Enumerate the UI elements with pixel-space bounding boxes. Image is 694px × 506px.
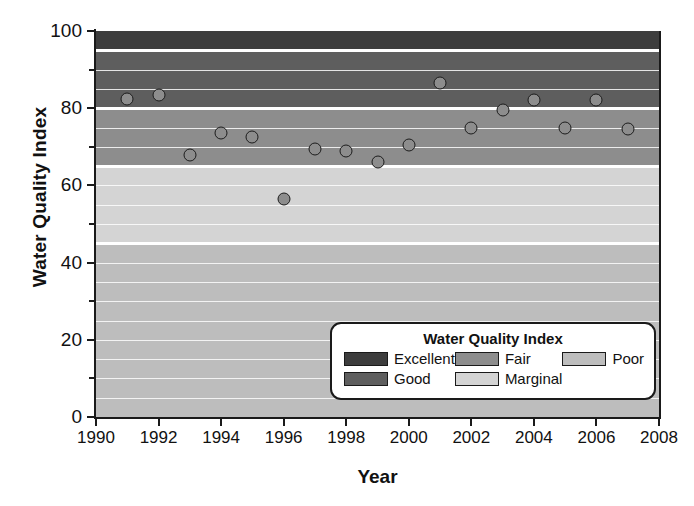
legend-column-3: Poor bbox=[562, 350, 644, 387]
data-point bbox=[152, 88, 165, 101]
band-separator bbox=[96, 107, 659, 110]
legend-item-excellent: Excellent bbox=[344, 350, 455, 367]
legend-item-marginal: Marginal bbox=[455, 370, 563, 387]
y-tick-minor bbox=[89, 223, 94, 225]
legend-label: Marginal bbox=[505, 371, 563, 386]
data-point bbox=[246, 131, 259, 144]
y-tick-minor bbox=[89, 300, 94, 302]
x-tick bbox=[158, 419, 160, 426]
legend-item-fair: Fair bbox=[455, 350, 563, 367]
band-separator bbox=[96, 49, 659, 52]
x-tick-label: 1992 bbox=[140, 428, 178, 448]
y-tick-major bbox=[87, 184, 94, 186]
gridline bbox=[96, 263, 659, 264]
legend-label: Fair bbox=[505, 351, 531, 366]
legend-box: Water Quality Index ExcellentGoodFairMar… bbox=[330, 322, 656, 400]
data-point bbox=[371, 156, 384, 169]
y-tick-label: 80 bbox=[20, 97, 82, 119]
gridline bbox=[96, 205, 659, 206]
data-point bbox=[434, 77, 447, 90]
x-tick bbox=[345, 419, 347, 426]
y-tick-major bbox=[87, 107, 94, 109]
gridline bbox=[96, 282, 659, 283]
data-point bbox=[277, 192, 290, 205]
legend-swatch-fair bbox=[455, 352, 499, 366]
x-tick bbox=[470, 419, 472, 426]
data-point bbox=[559, 121, 572, 134]
gridline bbox=[96, 70, 659, 71]
x-tick bbox=[658, 419, 660, 426]
legend-column-2: FairMarginal bbox=[455, 350, 563, 387]
band-separator bbox=[96, 242, 659, 245]
x-tick-label: 1990 bbox=[77, 428, 115, 448]
y-axis-line bbox=[94, 29, 96, 419]
gridline bbox=[96, 301, 659, 302]
y-tick-label: 40 bbox=[20, 252, 82, 274]
data-point bbox=[590, 94, 603, 107]
x-tick-label: 1994 bbox=[202, 428, 240, 448]
data-point bbox=[340, 144, 353, 157]
band-excellent bbox=[96, 31, 659, 50]
legend-columns: ExcellentGoodFairMarginalPoor bbox=[340, 350, 646, 387]
gridline bbox=[96, 185, 659, 186]
legend-swatch-poor bbox=[562, 352, 606, 366]
y-tick-label: 60 bbox=[20, 174, 82, 196]
y-tick-major bbox=[87, 262, 94, 264]
legend-title: Water Quality Index bbox=[340, 330, 646, 347]
x-tick bbox=[283, 419, 285, 426]
data-point bbox=[496, 104, 509, 117]
x-tick-label: 2000 bbox=[390, 428, 428, 448]
legend-swatch-excellent bbox=[344, 352, 388, 366]
data-point bbox=[121, 92, 134, 105]
x-tick-label: 1996 bbox=[265, 428, 303, 448]
data-point bbox=[527, 94, 540, 107]
legend-label: Good bbox=[394, 371, 431, 386]
y-tick-minor bbox=[89, 146, 94, 148]
data-point bbox=[215, 127, 228, 140]
data-point bbox=[402, 138, 415, 151]
y-tick-label: 0 bbox=[20, 406, 82, 428]
legend-label: Poor bbox=[612, 351, 644, 366]
band-good bbox=[96, 50, 659, 108]
x-tick-label: 2002 bbox=[452, 428, 490, 448]
y-tick-major bbox=[87, 339, 94, 341]
gridline bbox=[96, 128, 659, 129]
gridline bbox=[96, 89, 659, 90]
x-tick-label: 2004 bbox=[515, 428, 553, 448]
y-tick-label: 20 bbox=[20, 329, 82, 351]
x-axis-title: Year bbox=[96, 466, 659, 488]
data-point bbox=[621, 123, 634, 136]
x-tick-label: 1998 bbox=[327, 428, 365, 448]
y-tick-minor bbox=[89, 377, 94, 379]
gridline bbox=[96, 147, 659, 148]
x-tick-label: 2008 bbox=[640, 428, 678, 448]
gridline bbox=[96, 224, 659, 225]
data-point bbox=[183, 148, 196, 161]
x-tick bbox=[533, 419, 535, 426]
legend-swatch-good bbox=[344, 372, 388, 386]
legend-column-1: ExcellentGood bbox=[344, 350, 455, 387]
y-tick-major bbox=[87, 30, 94, 32]
data-point bbox=[465, 121, 478, 134]
legend-item-good: Good bbox=[344, 370, 455, 387]
x-tick bbox=[220, 419, 222, 426]
x-tick bbox=[95, 419, 97, 426]
y-tick-minor bbox=[89, 69, 94, 71]
x-tick-label: 2006 bbox=[578, 428, 616, 448]
legend-label: Excellent bbox=[394, 351, 455, 366]
data-point bbox=[308, 142, 321, 155]
x-axis-line bbox=[94, 417, 661, 419]
x-tick bbox=[595, 419, 597, 426]
legend-swatch-marginal bbox=[455, 372, 499, 386]
y-tick-label: 100 bbox=[20, 20, 82, 42]
y-tick-major bbox=[87, 416, 94, 418]
x-tick bbox=[408, 419, 410, 426]
legend-item-poor: Poor bbox=[562, 350, 644, 367]
chart-figure: Water Quality Index Year 020406080100 19… bbox=[0, 0, 694, 506]
